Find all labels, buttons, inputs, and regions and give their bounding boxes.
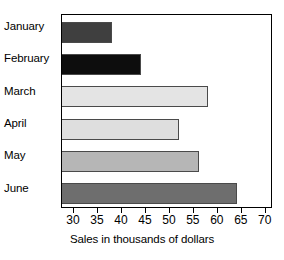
x-tick-label-70: 70	[258, 213, 271, 227]
y-axis-category-labels: January February March April May June	[0, 14, 58, 206]
bar-chart: January February March April May June 30…	[0, 0, 284, 260]
x-tick-label-35: 35	[90, 213, 103, 227]
x-tick-label-50: 50	[162, 213, 175, 227]
x-tick-label-60: 60	[210, 213, 223, 227]
bar-january	[62, 22, 112, 43]
x-tick-label-55: 55	[186, 213, 199, 227]
bar-april	[62, 119, 179, 140]
x-tick-label-40: 40	[114, 213, 127, 227]
category-label-may: May	[0, 149, 55, 161]
category-label-june: June	[0, 182, 55, 194]
plot-area	[61, 14, 272, 208]
category-label-april: April	[0, 117, 55, 129]
x-tick-label-45: 45	[138, 213, 151, 227]
x-tick-label-30: 30	[66, 213, 79, 227]
x-axis-title: Sales in thousands of dollars	[0, 232, 284, 246]
bar-february	[62, 54, 141, 75]
bar-march	[62, 86, 208, 107]
category-label-march: March	[0, 85, 55, 97]
x-axis-tick-labels: 303540455055606570	[0, 213, 284, 229]
category-label-february: February	[0, 52, 55, 64]
x-tick-label-65: 65	[234, 213, 247, 227]
category-label-january: January	[0, 20, 55, 32]
bar-may	[62, 151, 199, 172]
bar-june	[62, 183, 237, 204]
